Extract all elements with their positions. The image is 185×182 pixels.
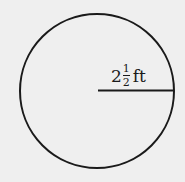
circle-diagram: 2 1 2 ft: [0, 0, 185, 182]
radius-whole: 2: [111, 66, 122, 86]
circle-figure: [0, 0, 185, 182]
fraction-denominator: 2: [123, 77, 130, 88]
fraction-numerator: 1: [123, 63, 130, 74]
radius-unit: ft: [133, 66, 146, 86]
radius-fraction: 1 2: [123, 63, 130, 88]
radius-label: 2 1 2 ft: [111, 63, 146, 88]
